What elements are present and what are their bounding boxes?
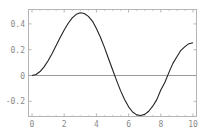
line-chart: 0246810 0.40.20-0.2 [0, 0, 209, 137]
x-tick-label: 8 [158, 120, 163, 129]
x-tick-label: 0 [30, 120, 35, 129]
x-tick-label: 4 [94, 120, 99, 129]
plot-frame [29, 10, 197, 117]
y-tick-label: 0.4 [11, 20, 26, 29]
y-tick-label: -0.2 [6, 97, 25, 106]
y-tick-label: 0.2 [11, 46, 26, 55]
y-axis-ticks: 0.40.20-0.2 [6, 20, 197, 106]
x-tick-label: 10 [188, 120, 198, 129]
x-tick-label: 6 [126, 120, 131, 129]
y-tick-label: 0 [20, 72, 25, 81]
x-tick-label: 2 [62, 120, 67, 129]
x-axis-ticks: 0246810 [30, 10, 198, 130]
data-curve [32, 13, 193, 116]
